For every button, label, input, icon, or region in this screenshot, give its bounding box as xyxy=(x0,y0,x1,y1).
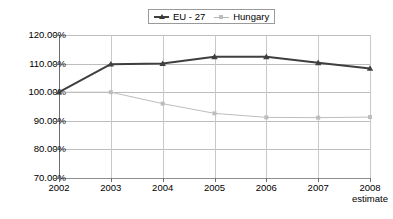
chart-figure: EU - 27 Hungary 120.00% 110.00% 100.00% … xyxy=(0,0,393,219)
data-point xyxy=(264,115,268,119)
data-point xyxy=(161,102,165,106)
data-point xyxy=(213,111,217,115)
series-line-eu-27 xyxy=(59,57,370,92)
figure-caption xyxy=(3,209,391,218)
data-point xyxy=(109,90,113,94)
series-markers-hungary xyxy=(57,90,372,119)
data-point xyxy=(316,116,320,120)
series-layer xyxy=(0,0,393,219)
series-markers-eu-27 xyxy=(56,54,373,95)
data-point xyxy=(368,115,372,119)
